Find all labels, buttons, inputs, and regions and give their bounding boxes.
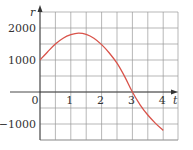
x-tick-label: 4	[159, 94, 166, 107]
grid	[40, 12, 178, 140]
x-tick-label: 1	[66, 94, 73, 107]
y-tick-label: −1000	[0, 118, 36, 131]
y-tick-label: 2000	[8, 22, 36, 35]
y-axis-label: r	[30, 6, 36, 19]
y-axis-arrow-icon	[38, 5, 43, 12]
chart: 0123420001000−1000 t r	[0, 0, 193, 150]
tick-labels: 0123420001000−1000	[0, 22, 166, 131]
x-tick-label: 2	[97, 94, 104, 107]
y-tick-label: 1000	[8, 54, 36, 67]
x-axis-label: t	[173, 94, 178, 107]
x-tick-label: 3	[128, 94, 135, 107]
x-tick-label: 0	[32, 94, 39, 107]
